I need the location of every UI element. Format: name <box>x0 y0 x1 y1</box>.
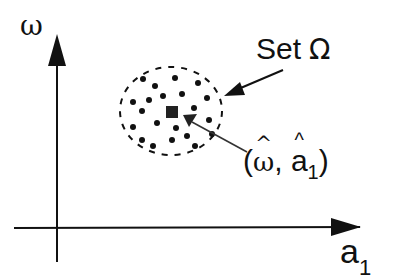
set-point <box>179 91 185 97</box>
y-axis-arrowhead-icon <box>48 34 66 66</box>
set-point <box>140 76 146 82</box>
x-axis-label-subscript: 1 <box>359 255 371 278</box>
set-point <box>152 83 158 89</box>
set-point <box>146 97 152 103</box>
paren-close: ) <box>319 144 329 177</box>
set-point <box>184 133 190 139</box>
set-label: SetΩ <box>256 34 330 64</box>
set-point <box>195 80 201 86</box>
set-pointer-arrowhead-icon <box>224 82 245 96</box>
set-point <box>192 143 198 149</box>
estimate-point-marker <box>166 106 178 118</box>
set-point <box>206 117 212 123</box>
set-point <box>204 95 210 101</box>
set-point <box>150 143 156 149</box>
omega-hat: ω <box>253 149 274 175</box>
diagram-canvas <box>0 0 395 278</box>
y-axis-label: ω <box>20 12 43 40</box>
a-hat: a <box>291 146 308 176</box>
set-label-symbol: Ω <box>309 33 330 66</box>
set-point <box>139 108 145 114</box>
x-axis-label: a1 <box>340 234 371 278</box>
set-point <box>173 125 179 131</box>
x-axis-line <box>14 227 360 228</box>
set-point <box>139 137 145 143</box>
estimate-point-label: (ω, a1) <box>243 146 329 182</box>
x-axis-label-base: a <box>340 232 359 270</box>
set-point <box>169 137 175 143</box>
set-point <box>130 124 136 130</box>
set-label-text: Set <box>256 32 301 65</box>
set-pointer-line <box>236 70 283 90</box>
set-point <box>154 120 160 126</box>
set-point <box>160 93 166 99</box>
set-point <box>191 105 197 111</box>
paren-open: ( <box>243 144 253 177</box>
set-point <box>172 75 178 81</box>
comma: , <box>274 144 282 177</box>
a-hat-subscript: 1 <box>308 161 319 183</box>
estimate-pointer-arrowhead-icon <box>183 114 197 127</box>
set-point <box>130 99 136 105</box>
